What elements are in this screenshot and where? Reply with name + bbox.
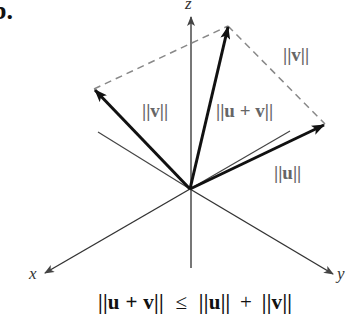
triangle-inequality-figure: b. z x y — [0, 0, 348, 329]
formula-lhs: ||u + v|| — [98, 290, 164, 315]
formula-relation: ≤ — [175, 290, 187, 315]
v-norm-label-right: ||v|| — [283, 44, 309, 66]
z-axis-label: z — [185, 0, 192, 14]
triangle-inequality-formula: ||u + v|| ≤ ||u|| + ||v|| — [98, 290, 292, 315]
u-norm-label: ||u|| — [274, 162, 301, 184]
y-axis — [190, 189, 333, 274]
y-axis-label: y — [337, 264, 345, 284]
formula-rhs-v: ||v|| — [262, 290, 293, 315]
x-axis-label: x — [29, 264, 37, 284]
vector-u — [190, 125, 324, 189]
u-plus-v-norm-label: ||u + v|| — [216, 100, 273, 122]
formula-rhs-u: ||u|| — [199, 290, 231, 315]
x-axis — [45, 189, 190, 273]
dashed-edge-top — [94, 26, 228, 89]
v-norm-label-left: ||v|| — [142, 100, 168, 122]
formula-plus: + — [240, 290, 252, 315]
